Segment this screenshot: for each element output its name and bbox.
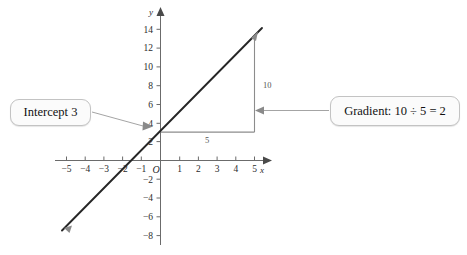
y-tick-label: 8	[148, 81, 153, 91]
y-tick-label: −8	[143, 231, 153, 241]
y-tick-label: 10	[144, 62, 154, 72]
y-axis-arrowhead	[157, 7, 165, 16]
y-tick-label: 12	[144, 43, 154, 53]
triangle-rise-label: 10	[263, 80, 272, 90]
origin-label: O	[152, 164, 159, 175]
line-end-arrow-upper	[251, 32, 258, 42]
y-tick-label: 6	[148, 100, 153, 110]
y-axis-label: y	[148, 7, 153, 17]
plotted-line	[62, 28, 262, 231]
triangle-run-label: 5	[205, 135, 209, 145]
x-tick-label: 3	[215, 164, 220, 174]
x-tick-label: 4	[233, 164, 238, 174]
intercept-leader-line	[92, 112, 143, 126]
x-axis-label: x	[259, 165, 264, 175]
x-tick-label: 1	[177, 164, 182, 174]
intercept-callout-label: Intercept 3	[24, 105, 78, 120]
x-axis-arrowhead	[263, 157, 272, 165]
y-tick-label: −6	[143, 212, 153, 222]
gradient-callout-label: Gradient: 10 ÷ 5 = 2	[344, 104, 446, 119]
graph-figure: −5 −4 −3 −2 −1 1 2 3 4 5 −2 −4 −6 −8 2 4…	[0, 0, 467, 255]
gradient-leader-arrowhead	[255, 107, 264, 115]
y-tick-label: −2	[143, 175, 153, 185]
y-tick-label: −4	[143, 193, 153, 203]
x-tick-label: 2	[196, 164, 201, 174]
y-tick-label: 14	[144, 25, 154, 35]
gradient-callout[interactable]: Gradient: 10 ÷ 5 = 2	[330, 96, 460, 126]
x-tick-label: −1	[136, 164, 146, 174]
x-tick-label: −3	[99, 164, 109, 174]
coordinate-plot: −5 −4 −3 −2 −1 1 2 3 4 5 −2 −4 −6 −8 2 4…	[0, 0, 467, 255]
x-tick-label: −5	[61, 164, 71, 174]
intercept-callout[interactable]: Intercept 3	[10, 99, 91, 126]
x-tick-label: 5	[252, 164, 257, 174]
x-tick-label: −4	[80, 164, 90, 174]
